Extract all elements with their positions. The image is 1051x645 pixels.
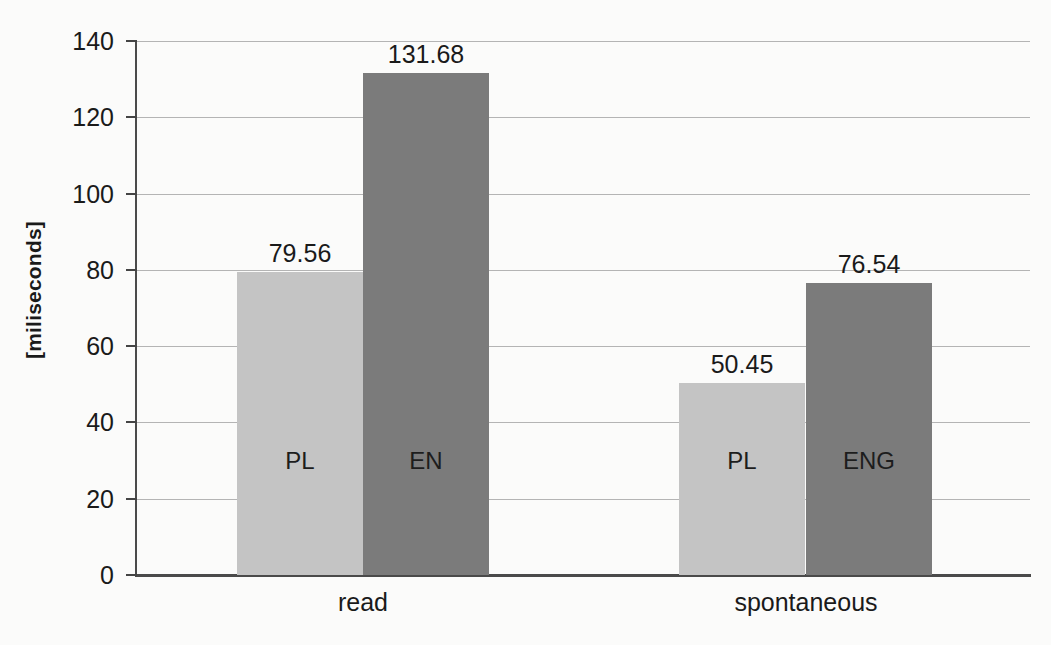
bar-inner-label: PL xyxy=(237,447,363,475)
gridline xyxy=(136,41,1030,42)
y-axis-tick-label: 40 xyxy=(52,410,114,435)
bar-inner-label: EN xyxy=(363,447,489,475)
y-axis-tick-mark xyxy=(126,269,137,271)
y-axis-tick-mark xyxy=(126,574,137,576)
gridline xyxy=(136,117,1030,118)
bar[interactable]: PL xyxy=(237,272,363,575)
bar[interactable]: PL xyxy=(679,383,805,575)
x-axis-category-label: spontaneous xyxy=(734,588,877,617)
x-axis-category-labels: readspontaneous xyxy=(136,588,1030,628)
bar[interactable]: EN xyxy=(363,73,489,575)
y-axis-tick-labels: 020406080100120140 xyxy=(52,0,114,645)
y-axis-tick-label: 80 xyxy=(52,257,114,282)
bar-value-label: 79.56 xyxy=(237,239,363,268)
bar-chart: [miliseconds] 020406080100120140 PL79.56… xyxy=(0,0,1051,645)
y-axis-tick-label: 60 xyxy=(52,334,114,359)
plot-area: PL79.56EN131.68PL50.45ENG76.54 xyxy=(136,41,1030,575)
y-axis-title-text: [miliseconds] xyxy=(22,221,46,359)
bar-value-label: 76.54 xyxy=(806,250,932,279)
y-axis-tick-mark xyxy=(126,498,137,500)
bar-inner-label: ENG xyxy=(806,447,932,475)
y-axis-tick-mark xyxy=(126,345,137,347)
x-axis-category-label: read xyxy=(338,588,388,617)
y-axis-tick-label: 20 xyxy=(52,486,114,511)
y-axis-tick-mark xyxy=(126,40,137,42)
bar[interactable]: ENG xyxy=(806,283,932,575)
y-axis-tick-label: 140 xyxy=(52,29,114,54)
y-axis-tick-label: 100 xyxy=(52,181,114,206)
bar-value-label: 50.45 xyxy=(679,350,805,379)
y-axis-tick-mark xyxy=(126,421,137,423)
y-axis-tick-mark xyxy=(126,193,137,195)
bar-value-label: 131.68 xyxy=(363,40,489,69)
bar-inner-label: PL xyxy=(679,447,805,475)
gridline xyxy=(136,194,1030,195)
y-axis-tick-label: 120 xyxy=(52,105,114,130)
y-axis-tick-label: 0 xyxy=(52,563,114,588)
y-axis-tick-mark xyxy=(126,116,137,118)
